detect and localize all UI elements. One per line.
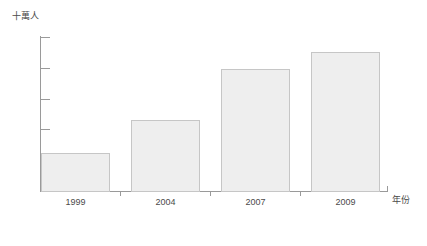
bar-2007 — [221, 69, 290, 192]
x-axis-title: 年份 — [392, 195, 410, 206]
bars-layer — [0, 0, 427, 192]
bar-2004 — [131, 120, 200, 192]
x-tick-label-2004: 2004 — [131, 197, 200, 208]
x-tick-label-2009: 2009 — [311, 197, 380, 208]
x-tick-mark — [300, 191, 301, 196]
bar-chart: 十萬人 0 5 10 15 20 25 1999 2004 2007 200 — [0, 0, 427, 246]
x-tick-mark — [210, 191, 211, 196]
x-tick-label-2007: 2007 — [221, 197, 290, 208]
x-tick-label-1999: 1999 — [41, 197, 110, 208]
x-tick-mark — [120, 191, 121, 196]
bar-1999 — [41, 153, 110, 192]
bar-2009 — [311, 52, 380, 192]
